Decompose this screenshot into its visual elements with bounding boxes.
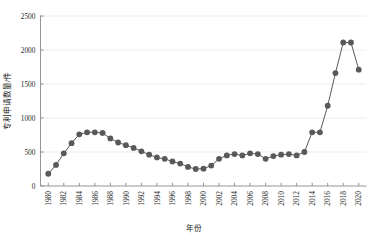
x-tick-label: 1980 (44, 191, 53, 206)
data-point (270, 153, 276, 159)
data-point (309, 129, 315, 135)
x-tick-label: 1996 (168, 191, 177, 206)
data-point (263, 156, 269, 162)
data-point (278, 152, 284, 158)
chart-container: 05001000150020002500 1980198219841986198… (0, 0, 374, 235)
data-point (177, 161, 183, 167)
data-point (131, 145, 137, 151)
x-tick-label: 2008 (261, 191, 270, 206)
data-point (239, 153, 245, 159)
x-tick-label: 2010 (277, 191, 286, 206)
data-point (325, 103, 331, 109)
x-axis-title: 年份 (186, 223, 202, 233)
data-point (154, 155, 160, 161)
x-tick-label: 2000 (199, 191, 208, 206)
data-point (340, 40, 346, 46)
data-point (53, 162, 59, 168)
x-tick-label: 2012 (292, 191, 301, 206)
data-point (115, 140, 121, 146)
data-point (92, 129, 98, 135)
data-point (294, 153, 300, 159)
data-point (45, 171, 51, 177)
data-point (333, 70, 339, 76)
data-point (255, 151, 261, 157)
x-tick-label: 1982 (59, 191, 68, 206)
data-point (216, 156, 222, 162)
data-point (170, 159, 176, 165)
data-point (317, 129, 323, 135)
data-point (356, 67, 362, 73)
data-point (286, 151, 292, 157)
y-tick-label: 1000 (21, 114, 36, 123)
data-point (208, 163, 214, 169)
data-point (107, 136, 113, 142)
data-point (185, 164, 191, 170)
y-tick-label: 2500 (21, 12, 36, 21)
x-tick-label: 2014 (308, 191, 317, 206)
data-point (224, 153, 230, 159)
x-tick-label: 1992 (137, 191, 146, 206)
data-point (100, 130, 106, 136)
data-point (61, 150, 67, 156)
x-tick-label: 2006 (246, 191, 255, 206)
y-tick-label: 2000 (21, 46, 36, 55)
x-tick-label: 1990 (122, 191, 131, 206)
data-point (201, 166, 207, 172)
data-point (146, 152, 152, 158)
y-tick-label: 500 (24, 148, 35, 157)
x-tick-label: 2004 (230, 191, 239, 206)
data-point (162, 156, 168, 162)
y-tick-label: 0 (32, 182, 36, 191)
x-tick-label: 1994 (153, 191, 162, 206)
data-point (123, 142, 129, 148)
x-tick-label: 2018 (339, 191, 348, 206)
y-tick-label: 1500 (21, 80, 36, 89)
data-point (76, 131, 82, 137)
data-point (84, 129, 90, 135)
data-point (348, 40, 354, 46)
data-point (193, 166, 199, 172)
x-tick-label: 1986 (91, 191, 100, 206)
data-point (302, 149, 308, 155)
x-tick-label: 1984 (75, 191, 84, 206)
x-tick-label: 1988 (106, 191, 115, 206)
x-tick-label: 2020 (354, 191, 363, 206)
x-tick-label: 1998 (184, 191, 193, 206)
x-tick-label: 2016 (323, 191, 332, 206)
y-axis-title: 专利申请数量/件 (2, 72, 12, 130)
data-point (232, 151, 238, 157)
x-tick-label: 2002 (215, 191, 224, 206)
data-point (247, 150, 253, 156)
data-point (139, 148, 145, 154)
line-chart: 05001000150020002500 1980198219841986198… (0, 0, 374, 235)
data-point (69, 140, 75, 146)
